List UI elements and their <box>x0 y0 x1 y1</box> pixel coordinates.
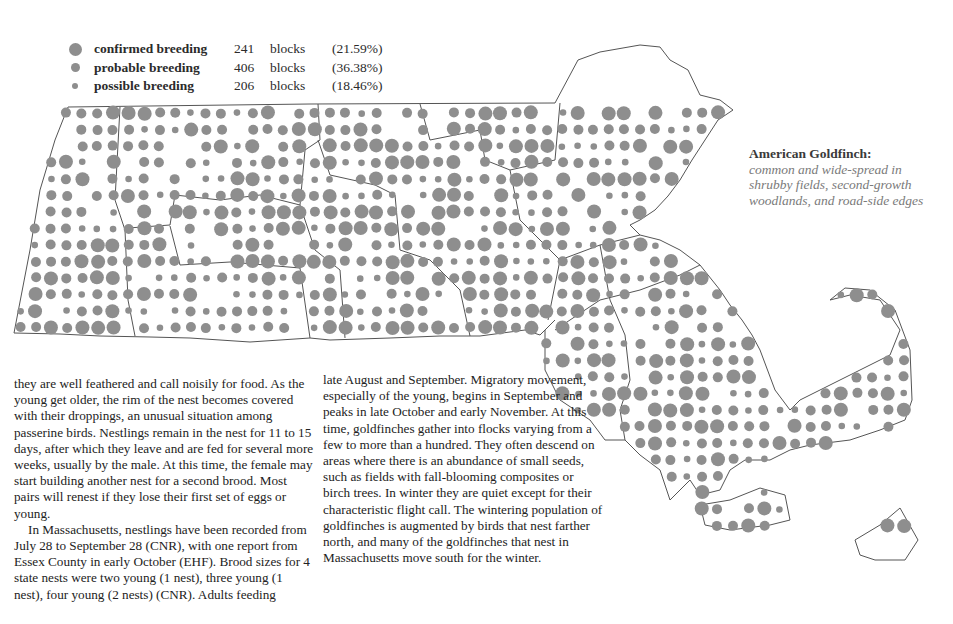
legend-percent: (21.59%) <box>332 40 383 59</box>
legend-row-confirmed: confirmed breeding 241 blocks (21.59%) <box>64 40 383 59</box>
paragraph: late August and September. Migratory mov… <box>323 372 603 566</box>
legend-row-possible: possible breeding 206 blocks (18.46%) <box>64 77 383 96</box>
legend-label: probable breeding <box>94 59 234 78</box>
legend-count: 206 <box>234 77 264 96</box>
small-dot-icon <box>72 83 78 89</box>
body-text-column-1: they are well feathered and call noisily… <box>14 376 314 603</box>
paragraph: In Massachusetts, nestlings have been re… <box>14 522 314 603</box>
legend: confirmed breeding 241 blocks (21.59%) p… <box>64 40 383 96</box>
legend-unit: blocks <box>270 77 328 96</box>
legend-row-probable: probable breeding 406 blocks (36.38%) <box>64 59 383 78</box>
legend-label: confirmed breeding <box>94 40 234 59</box>
medium-dot-icon <box>71 63 80 72</box>
species-caption: American Goldfinch: common and wide-spre… <box>749 146 924 208</box>
legend-unit: blocks <box>270 40 328 59</box>
species-name: American Goldfinch: <box>749 146 924 162</box>
paragraph: they are well feathered and call noisily… <box>14 376 314 522</box>
large-dot-icon <box>69 43 82 56</box>
legend-percent: (18.46%) <box>332 77 383 96</box>
body-text-column-2: late August and September. Migratory mov… <box>323 372 603 566</box>
legend-count: 241 <box>234 40 264 59</box>
legend-label: possible breeding <box>94 77 234 96</box>
legend-percent: (36.38%) <box>332 59 383 78</box>
legend-count: 406 <box>234 59 264 78</box>
species-description: common and wide-spread in shrubby fields… <box>749 162 924 209</box>
legend-unit: blocks <box>270 59 328 78</box>
